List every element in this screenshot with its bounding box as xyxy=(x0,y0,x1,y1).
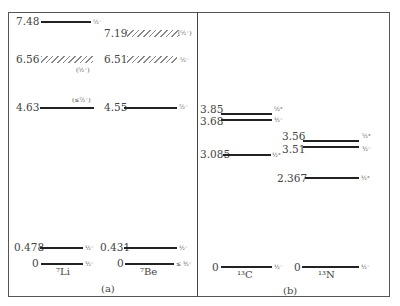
c13-level-3.68-line xyxy=(221,119,272,121)
n13-level-2.367-energy: 2.367 xyxy=(277,173,307,184)
c13-level-0-line xyxy=(221,266,272,268)
be7-level-0-jp: ≤ ³⁄₂⁻ xyxy=(176,261,192,267)
n13-level-2.367-jp: ½⁺ xyxy=(361,175,370,181)
c13-level-3.085-jp: ½⁺ xyxy=(272,152,281,158)
li7-level-6.56-energy: 6.56 xyxy=(16,54,39,65)
c13-nucleus-label: ¹³C xyxy=(237,269,253,280)
be7-level-0-line xyxy=(125,263,174,265)
n13-level-3.56-energy: 3.56 xyxy=(282,131,305,142)
be7-level-4.55-line xyxy=(124,107,177,109)
li7-level-0-energy: 0 xyxy=(32,258,39,269)
li7-level-6.56-jp: (⁵⁄₂⁻) xyxy=(76,67,90,73)
li7-level-6.56-hatch xyxy=(41,56,93,63)
c13-level-3.85-energy: 3.85 xyxy=(200,104,223,115)
n13-level-0-energy: 0 xyxy=(294,262,301,273)
li7-level-7.48-jp: ⁵⁄₂⁻ xyxy=(93,19,102,25)
n13-level-3.56-line xyxy=(303,140,359,142)
n13-level-0-line xyxy=(302,266,359,268)
be7-level-7.19-energy: 7.19 xyxy=(104,28,127,39)
be7-level-6.51-hatch xyxy=(127,56,177,63)
li7-level-7.48-energy: 7.48 xyxy=(16,16,39,27)
n13-level-3.56-jp: ⁵⁄₂⁺ xyxy=(362,133,371,139)
be7-level-0-energy: 0 xyxy=(117,258,124,269)
c13-level-3.68-jp: ³⁄₂⁻ xyxy=(274,117,283,123)
li7-level-7.48-line xyxy=(41,21,91,23)
be7-nucleus-label: ⁷Be xyxy=(140,266,157,277)
li7-level-0.478-jp: ½⁻ xyxy=(85,245,94,251)
panel-divider xyxy=(197,12,198,297)
n13-level-3.51-jp: ³⁄₂⁻ xyxy=(362,146,371,152)
li7-level-0.478-line xyxy=(40,247,83,249)
panel-b-caption: (b) xyxy=(283,285,297,296)
n13-nucleus-label: ¹³N xyxy=(318,269,335,280)
c13-level-3.085-line xyxy=(223,154,271,156)
n13-level-0-jp: ½⁻ xyxy=(361,264,370,270)
c13-level-3.68-energy: 3.68 xyxy=(200,116,223,127)
n13-level-3.51-energy: 3.51 xyxy=(282,144,305,155)
c13-level-3.85-jp: ⁵⁄₂⁺ xyxy=(274,106,283,112)
n13-level-2.367-line xyxy=(305,177,359,179)
li7-level-4.63-line xyxy=(40,107,94,109)
figure-frame xyxy=(8,12,390,297)
li7-level-4.63-jp: (≤⁷⁄₂⁻) xyxy=(72,97,91,103)
be7-level-7.19-jp: (⁵⁄₂⁻) xyxy=(178,30,192,36)
li7-level-0-jp: ³⁄₂⁻ xyxy=(85,261,94,267)
be7-level-6.51-energy: 6.51 xyxy=(104,54,127,65)
c13-level-3.85-line xyxy=(221,113,272,115)
li7-level-0-line xyxy=(41,263,83,265)
li7-level-4.63-energy: 4.63 xyxy=(16,102,39,113)
be7-level-4.55-jp: ⁷⁄₂⁻ xyxy=(179,104,188,110)
c13-level-0-jp: ½⁻ xyxy=(274,264,283,270)
be7-level-6.51-jp: ⁵⁄₂⁻ xyxy=(180,57,189,63)
be7-level-0.431-jp: ½⁻ xyxy=(179,245,188,251)
li7-nucleus-label: ⁷Li xyxy=(56,266,70,277)
be7-level-0.431-line xyxy=(124,247,177,249)
panel-a-caption: (a) xyxy=(101,283,115,294)
c13-level-0-energy: 0 xyxy=(212,262,219,273)
n13-level-3.51-line xyxy=(303,146,359,148)
be7-level-7.19-hatch xyxy=(127,30,179,37)
